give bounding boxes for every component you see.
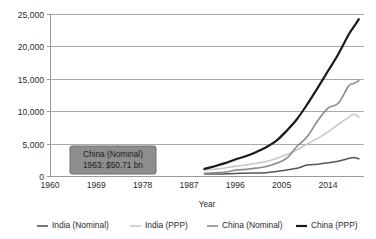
legend-label-2: India (PPP) <box>145 220 188 230</box>
legend-label-1: India (Nominal) <box>52 220 109 230</box>
y-axis-tick-label: 5,000 <box>22 140 44 150</box>
chart-container: 05,00010,00015,00020,00025,000 China (No… <box>0 0 376 239</box>
x-axis-tick-label: 2014 <box>318 180 337 190</box>
x-axis-tick-label: 1969 <box>87 180 106 190</box>
y-axis-tick-label: 15,000 <box>18 75 45 85</box>
x-axis-tick-label: 1996 <box>226 180 245 190</box>
y-axis-tick-label: 20,000 <box>18 42 45 52</box>
annotation-tooltip[interactable]: China (Nominal) 1963: $50.71 bn <box>70 146 156 174</box>
x-axis-tick-label: 1987 <box>179 180 198 190</box>
x-axis-title: Year <box>199 200 216 209</box>
legend-label-3: China (Nominal) <box>222 220 283 230</box>
x-axis-tick-label: 2005 <box>272 180 291 190</box>
legend-label-4: China (PPP) <box>311 220 358 230</box>
y-axis-tick-label: 25,000 <box>18 10 45 20</box>
tooltip-value-label: 1963: $50.71 bn <box>83 160 143 170</box>
gdp-line-chart: 05,00010,00015,00020,00025,000 China (No… <box>0 0 376 239</box>
x-axis-tick-label: 1960 <box>40 180 59 190</box>
y-axis-tick-label: 10,000 <box>18 107 45 117</box>
x-axis-tick-label: 1978 <box>133 180 152 190</box>
tooltip-series-label: China (Nominal) <box>83 149 143 159</box>
